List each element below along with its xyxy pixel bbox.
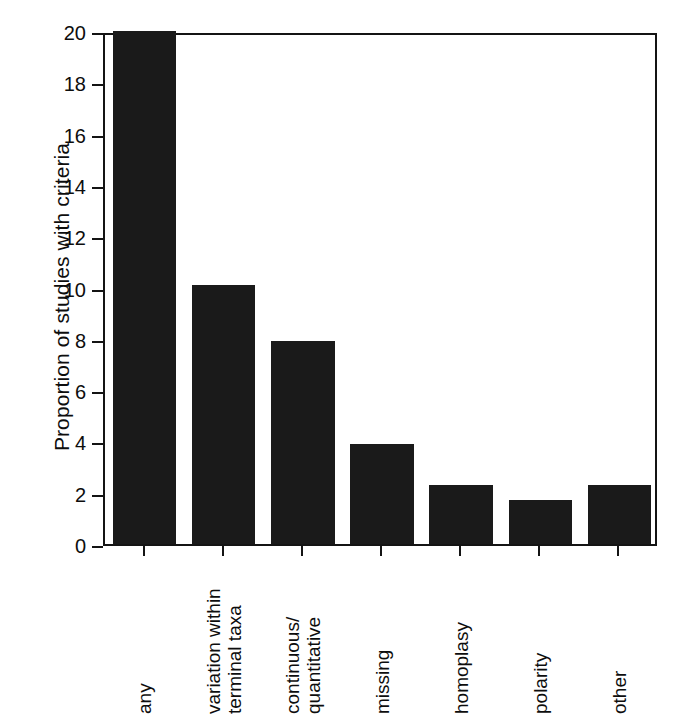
bar [271,341,334,544]
x-tick-mark [222,546,224,556]
bar [509,500,572,544]
y-tick-mark [92,290,103,292]
x-tick-mark [617,546,619,556]
figure-caption [0,707,680,721]
plot-area [103,33,657,546]
y-tick-mark [92,341,103,343]
y-tick-label: 10 [26,278,86,301]
bar-chart-figure: Proportion of studies with criteria 0246… [0,0,680,721]
x-tick-label: homoplasy [451,622,472,714]
x-tick-mark [301,546,303,556]
y-tick-label: 0 [26,535,86,558]
y-tick-label: 14 [26,175,86,198]
y-tick-label: 8 [26,329,86,352]
bar [350,444,413,544]
bar [588,485,651,544]
y-tick-label: 16 [26,124,86,147]
y-tick-mark [92,33,103,35]
y-tick-mark [92,546,103,548]
y-tick-mark [92,84,103,86]
y-tick-mark [92,443,103,445]
y-tick-label: 12 [26,227,86,250]
y-tick-mark [92,187,103,189]
y-tick-label: 2 [26,483,86,506]
x-tick-mark [380,546,382,556]
bar [192,285,255,544]
bar [113,31,176,544]
x-tick-mark [538,546,540,556]
y-tick-label: 20 [26,22,86,45]
x-tick-mark [143,546,145,556]
x-tick-label: missing [372,650,393,714]
y-tick-label: 6 [26,381,86,404]
bar-series [105,35,655,544]
y-tick-mark [92,495,103,497]
x-tick-label: variation within terminal taxa [203,588,245,714]
y-tick-label: 18 [26,73,86,96]
y-tick-label: 4 [26,432,86,455]
x-tick-mark [459,546,461,556]
x-tick-label: polarity [530,653,551,714]
x-tick-label: continuous/ quantitative [282,617,324,714]
y-tick-mark [92,392,103,394]
y-tick-mark [92,238,103,240]
bar [429,485,492,544]
y-tick-mark [92,136,103,138]
